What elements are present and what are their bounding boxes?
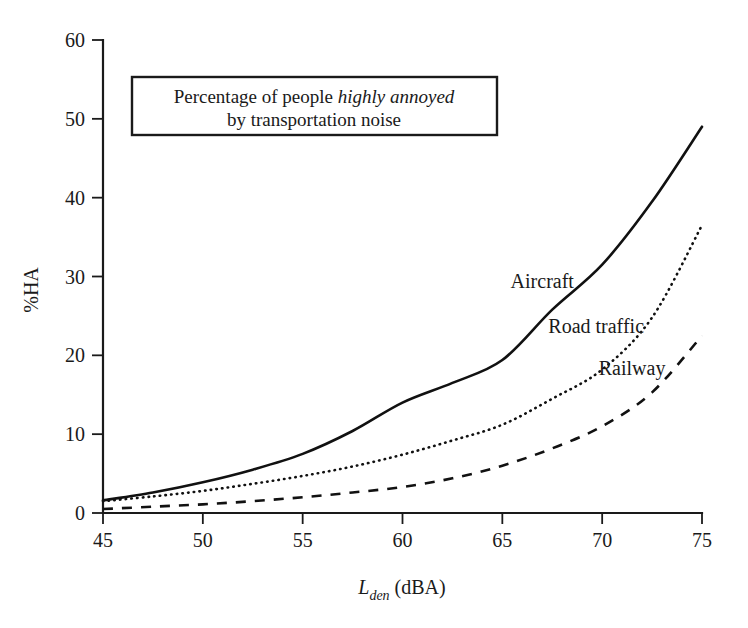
x-tick-label: 75 <box>692 529 712 551</box>
x-tick-label: 45 <box>93 529 113 551</box>
title-prefix: Percentage of people <box>174 86 338 107</box>
y-tick-label: 40 <box>65 187 85 209</box>
series-label-railway: Railway <box>599 357 666 380</box>
title-line-2: by transportation noise <box>227 109 401 130</box>
x-tick-label: 65 <box>492 529 512 551</box>
series-label-road-traffic: Road traffic <box>548 315 644 337</box>
x-axis-title-symbol: L <box>357 576 369 598</box>
annoyance-vs-noise-chart: 0102030405060 45505560657075 %HA Lden (d… <box>0 0 748 628</box>
series-label-aircraft: Aircraft <box>511 270 575 292</box>
chart-title-box: Percentage of people highly annoyed by t… <box>132 77 497 135</box>
title-line-1: Percentage of people highly annoyed <box>174 86 455 107</box>
x-tick-label: 70 <box>592 529 612 551</box>
x-axis-title-subscript: den <box>369 588 389 603</box>
y-tick-label: 30 <box>65 266 85 288</box>
y-tick-label: 60 <box>65 29 85 51</box>
x-tick-label: 55 <box>293 529 313 551</box>
title-emphasis: highly annoyed <box>338 86 455 107</box>
y-tick-label: 0 <box>75 502 85 524</box>
y-tick-label: 50 <box>65 108 85 130</box>
y-tick-label: 20 <box>65 344 85 366</box>
x-tick-label: 60 <box>393 529 413 551</box>
x-axis-title-unit: (dBA) <box>390 576 446 599</box>
y-axis-title: %HA <box>20 267 42 313</box>
x-tick-label: 50 <box>193 529 213 551</box>
y-tick-label: 10 <box>65 423 85 445</box>
chart-figure: 0102030405060 45505560657075 %HA Lden (d… <box>0 0 748 628</box>
